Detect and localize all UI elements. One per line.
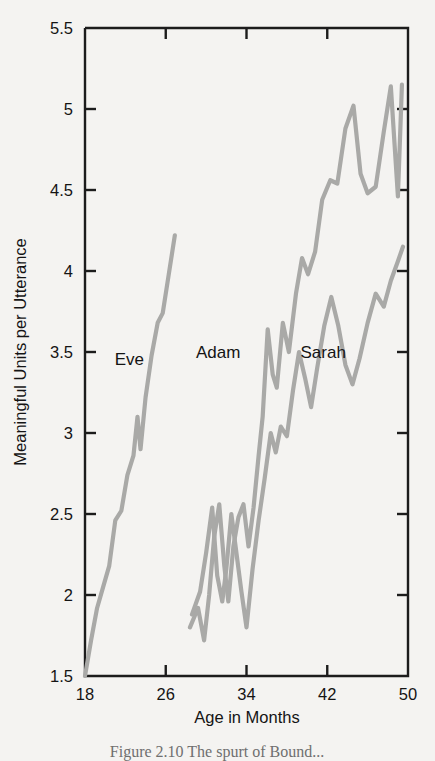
- series-label-eve: Eve: [115, 350, 144, 369]
- y-tick-label: 2: [64, 586, 73, 604]
- x-tick-label: 50: [399, 685, 417, 703]
- series-label-adam: Adam: [196, 343, 240, 362]
- y-tick-label: 4: [64, 262, 73, 280]
- y-tick-label: 4.5: [50, 181, 73, 199]
- y-tick-label: 3.5: [50, 343, 73, 361]
- y-tick-label: 5.5: [50, 19, 73, 37]
- x-axis-title: Age in Months: [194, 708, 299, 726]
- y-tick-label: 5: [64, 100, 73, 118]
- x-tick-label: 26: [157, 685, 175, 703]
- y-tick-label: 1.5: [50, 667, 73, 685]
- y-tick-label: 2.5: [50, 505, 73, 523]
- y-axis-title: Meaningful Units per Utterance: [11, 238, 29, 465]
- series-label-sarah: Sarah: [301, 343, 346, 362]
- x-tick-label: 34: [237, 685, 255, 703]
- figure-caption: Figure 2.10 The spurt of Bound...: [110, 743, 324, 761]
- x-tick-label: 42: [318, 685, 336, 703]
- figure-container: 1.522.533.544.555.5 1826344250 EveAdamSa…: [0, 0, 435, 761]
- mlu-growth-line-chart: 1.522.533.544.555.5 1826344250 EveAdamSa…: [0, 0, 435, 761]
- x-tick-label: 18: [76, 685, 94, 703]
- y-tick-label: 3: [64, 424, 73, 442]
